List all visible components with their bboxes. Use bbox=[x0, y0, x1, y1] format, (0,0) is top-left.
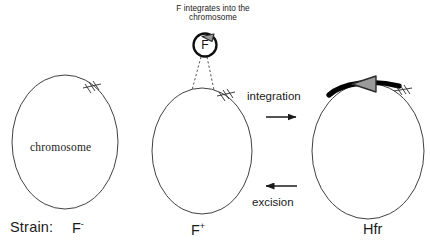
strain-prefix-label: Strain: bbox=[10, 219, 53, 236]
diagram-vector-layer bbox=[0, 0, 430, 245]
chromosome-marker-ticks-f-minus bbox=[83, 81, 101, 93]
strain-label-f-plus-name: F bbox=[191, 222, 200, 238]
chromosome-circle-hfr bbox=[312, 83, 424, 219]
strain-label-f-minus-name: F bbox=[72, 220, 81, 236]
strain-label-hfr: Hfr bbox=[363, 221, 382, 238]
strain-label-f-minus: F- bbox=[72, 219, 84, 237]
diagram-caption: F integrates into thechromosome bbox=[133, 4, 293, 23]
diagram-caption-line-1: F integrates into the bbox=[176, 4, 249, 13]
excision-label: excision bbox=[252, 196, 294, 209]
chromosome-label: chromosome bbox=[30, 141, 91, 154]
strain-label-f-plus: F+ bbox=[191, 221, 205, 239]
integrated-f-orientation-arrowhead-icon bbox=[352, 76, 376, 92]
chromosome-marker-ticks-f-plus bbox=[217, 89, 235, 101]
strain-label-f-plus-superscript: + bbox=[200, 221, 205, 231]
strain-label-f-minus-superscript: - bbox=[81, 219, 84, 229]
chromosome-circle-f-plus bbox=[152, 88, 252, 214]
recombination-dashed-lines bbox=[192, 57, 214, 90]
strain-label-hfr-name: Hfr bbox=[363, 221, 382, 237]
diagram-caption-line-2: chromosome bbox=[189, 13, 237, 22]
chromosome-marker-ticks-hfr bbox=[394, 85, 412, 95]
f-plasmid-label: F bbox=[196, 38, 214, 52]
diagram-canvas: F integrates into thechromosome F chromo… bbox=[0, 0, 430, 245]
integration-label: integration bbox=[247, 90, 301, 103]
